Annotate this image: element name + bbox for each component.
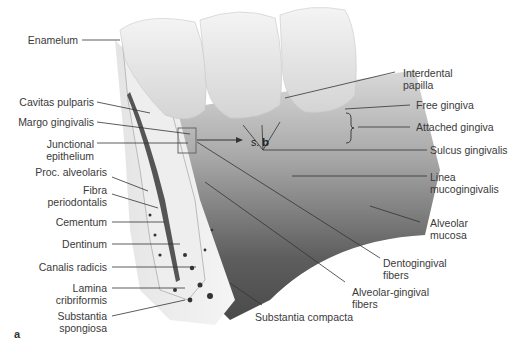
label-margo-gingivalis: Margo gingivalis xyxy=(18,116,94,128)
label-cavitas-pulparis: Cavitas pulparis xyxy=(19,96,94,108)
label-interdental-papilla: Interdental papilla xyxy=(403,67,453,91)
crossref-label: s. b xyxy=(251,136,269,148)
label-free-gingiva: Free gingiva xyxy=(416,99,474,111)
label-substantia-spongiosa: Substantia spongiosa xyxy=(57,310,107,334)
label-junctional-epithelium: Junctional epithelium xyxy=(46,138,94,162)
crown-2 xyxy=(200,12,282,118)
label-dentogingival-fibers: Dentogingival fibers xyxy=(383,257,447,281)
label-fibra-periodontalis: Fibra periodontalis xyxy=(47,184,107,208)
label-dentinum: Dentinum xyxy=(62,238,107,250)
label-alveolar-gingival-fibers: Alveolar-gingival fibers xyxy=(352,286,429,310)
panel-letter: a xyxy=(14,328,20,340)
label-linea-mucogingivalis: Linea mucogingivalis xyxy=(430,171,499,195)
label-alveolar-mucosa: Alveolar mucosa xyxy=(430,217,468,241)
label-enamelum: Enamelum xyxy=(28,34,78,46)
label-cementum: Cementum xyxy=(56,216,107,228)
label-lamina-cribriformis: Lamina cribriformis xyxy=(56,282,107,306)
label-canalis-radicis: Canalis radicis xyxy=(39,261,107,273)
label-attached-gingiva: Attached gingiva xyxy=(416,121,494,133)
label-sulcus-gingivalis: Sulcus gingivalis xyxy=(430,144,508,156)
label-substantia-compacta: Substantia compacta xyxy=(255,311,353,323)
label-proc-alveolaris: Proc. alveolaris xyxy=(35,166,107,178)
